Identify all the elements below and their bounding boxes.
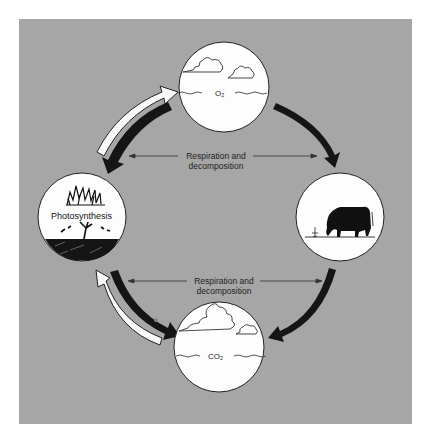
respiration-annotation-upper: Respiration and decomposition bbox=[178, 151, 254, 171]
annotation-line1: Respiration and bbox=[186, 276, 262, 286]
co2-label: CO₂ bbox=[208, 352, 223, 361]
respiration-annotation-lower: Respiration and decomposition bbox=[186, 276, 262, 296]
node-o2-atmosphere bbox=[178, 42, 269, 132]
photosynthesis-label: Photosynthesis bbox=[51, 211, 112, 221]
soil-icon bbox=[45, 239, 119, 261]
annotation-line2: decomposition bbox=[186, 286, 262, 296]
annotation-line1: Respiration and bbox=[178, 151, 254, 161]
node-animal-cow bbox=[296, 173, 384, 261]
o2-label: O₂ bbox=[215, 89, 224, 98]
carbon-oxygen-cycle-diagram bbox=[0, 0, 432, 443]
arrow-o2-to-animal-black bbox=[273, 103, 340, 168]
arrow-animal-to-co2-black bbox=[268, 268, 336, 342]
annotation-line2: decomposition bbox=[178, 161, 254, 171]
node-co2-atmosphere bbox=[174, 302, 266, 392]
